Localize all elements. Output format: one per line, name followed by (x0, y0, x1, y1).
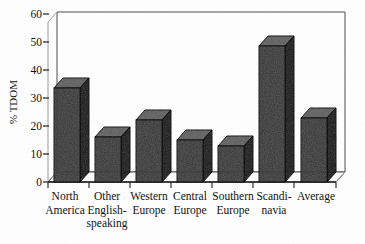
x-label-average: Average (285, 190, 347, 204)
x-axis-labels: North America Other English- speaking We… (0, 186, 365, 244)
bar-chart: % TDOM 60 50 40 30 20 10 0 (0, 0, 365, 244)
bar-western-europe (136, 110, 171, 182)
bar-other-english-speaking (95, 127, 130, 182)
bar-north-america (54, 78, 89, 182)
bar-scandinavia (259, 36, 294, 182)
bar-average (301, 108, 336, 182)
bar-central-europe (177, 130, 212, 182)
bar-southern-europe (218, 136, 253, 182)
